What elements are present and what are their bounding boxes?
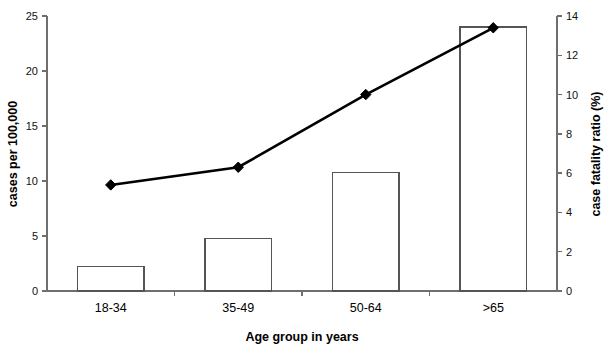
left-tick-label: 5 xyxy=(32,230,38,242)
right-tick-label: 0 xyxy=(566,285,572,297)
category-axis-ticks xyxy=(175,291,430,296)
diamond-marker xyxy=(361,89,371,99)
right-tick-label: 10 xyxy=(566,89,578,101)
bar xyxy=(78,267,144,291)
right-tick-label: 4 xyxy=(566,206,572,218)
right-tick-label: 2 xyxy=(566,246,572,258)
bar xyxy=(205,238,271,291)
right-tick-label: 14 xyxy=(566,10,578,22)
diamond-marker xyxy=(233,162,243,172)
left-tick-label: 15 xyxy=(26,120,38,132)
left-axis-ticks: 0510152025 xyxy=(26,10,47,297)
y-axis-title: cases per 100,000 xyxy=(6,101,20,207)
chart-container: 0510152025 02468101214 18-3435-4950-64>6… xyxy=(0,0,615,349)
category-labels: 18-3435-4950-64>65 xyxy=(95,301,504,315)
right-axis-ticks: 02468101214 xyxy=(557,10,578,297)
dual-axis-chart: 0510152025 02468101214 18-3435-4950-64>6… xyxy=(0,0,615,349)
left-tick-label: 25 xyxy=(26,10,38,22)
bar xyxy=(333,172,399,291)
bar-series xyxy=(78,27,527,291)
left-tick-label: 10 xyxy=(26,175,38,187)
category-label: 50-64 xyxy=(350,301,382,315)
bar xyxy=(460,27,526,291)
left-tick-label: 0 xyxy=(32,285,38,297)
line-series-markers xyxy=(106,23,499,191)
right-tick-label: 6 xyxy=(566,167,572,179)
x-axis-title: Age group in years xyxy=(245,330,358,344)
right-tick-label: 12 xyxy=(566,49,578,61)
y2-axis-title: case fatality ratio (%) xyxy=(589,91,603,216)
right-tick-label: 8 xyxy=(566,128,572,140)
category-label: 35-49 xyxy=(222,301,254,315)
line-path xyxy=(111,28,494,185)
category-label: 18-34 xyxy=(95,301,127,315)
diamond-marker xyxy=(106,180,116,190)
left-tick-label: 20 xyxy=(26,65,38,77)
category-label: >65 xyxy=(483,301,504,315)
line-series xyxy=(111,28,494,185)
